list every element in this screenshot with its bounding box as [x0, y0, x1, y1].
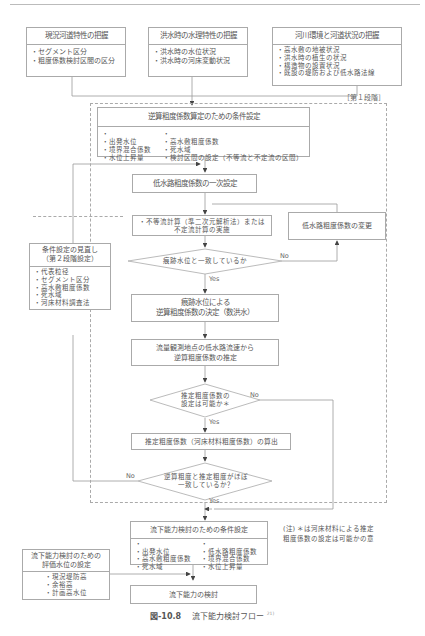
decision3-line1: 逆算粗度と推定粗度がほぼ [148, 473, 263, 481]
figure-title: 流下能力検討フロー [192, 612, 264, 621]
flow-calc-line2: 不定流計算の実施 [174, 226, 230, 234]
reverse-roughness-condition-box: 逆算粗度係数算定のための条件設定 出発水位 境界混合係数 水位上昇量 高水敷粗度… [97, 107, 310, 157]
river-environment-box: 河川環境と河道状況の把握 高水敷の地被状況 洪水時の植生の状況 構造物の設置状況… [272, 27, 402, 86]
flow-calc-box: ・不等流計算（準二次元解析法）または 不定流計算の実施 [132, 215, 272, 236]
figure-reference: 21) [267, 611, 274, 616]
box-title: 現況河道特性の把握 [27, 28, 125, 45]
decision3-line2: 一致しているか？ [148, 481, 263, 489]
decision3-no-label: No [126, 472, 135, 480]
box-item: 死水域 [163, 146, 303, 154]
estimate-line2: 逆算粗度係数の推定 [174, 353, 237, 363]
calc-estimated-box: 推定粗度係数（河床材料粗度係数）の算出 [131, 433, 291, 450]
flow-capacity-condition-box: 流下能力検討のための条件設定 出発水位 高水敷粗度係数 死水域 低水路粗度係数 … [130, 521, 268, 565]
footnote: (注) ＊は河床材料による推定 粗度係数の設定は可能かの意 [283, 524, 374, 544]
box-item: 検討区間の設定（不等流と不定流の区間） [163, 154, 303, 162]
review-title-line2: （第２段階設定） [32, 255, 108, 264]
current-channel-box: 現況河道特性の把握 セグメント区分 粗度係数検討区間の区分 [26, 27, 126, 77]
eval-title-line1: 流下能力検討のための [25, 552, 107, 561]
decision1-no-label: No [280, 252, 289, 260]
low-channel-change-box: 低水路粗度係数の変更 [288, 212, 386, 240]
footnote-line2: 粗度係数の設定は可能かの意 [283, 534, 374, 544]
box-title: 流下能力検討のための条件設定 [131, 522, 267, 539]
flow-capacity-review-box: 流下能力の検討 [130, 585, 257, 604]
box-title: 洪水時の水理特性の把握 [149, 28, 247, 45]
footnote-line1: (注) ＊は河床材料による推定 [283, 524, 374, 534]
determine-roughness-box: 痕跡水位による 逆算粗度係数の決定（数洪水） [131, 294, 279, 322]
determine-line2: 逆算粗度係数の決定（数洪水） [156, 308, 254, 318]
stage1-label: ［第１段階］ [343, 92, 385, 102]
eval-title-line2: 評価水位の設定 [25, 561, 107, 570]
box-title: 流下能力検討のための 評価水位の設定 [23, 550, 109, 572]
box-item: 河床材料調査法 [34, 300, 106, 308]
figure-number: 図-10.8 [150, 612, 181, 621]
box-title: 河川環境と河道状況の把握 [273, 28, 401, 45]
box-item: 計画高水位 [45, 590, 105, 598]
decision1-text: 痕跡水位と一致しているか [150, 257, 260, 265]
box-item: 境界混合係数 [102, 146, 151, 154]
condition-review-box: 条件設定の見直し （第２段階設定） 代表粒径 セグメント区分 高水敷粗度係数 死… [29, 243, 111, 310]
box-item: 既設の堤防および低水路法線 [277, 70, 397, 78]
review-title-line1: 条件設定の見直し [32, 246, 108, 255]
decision2-line1: 推定粗度係数の [165, 392, 245, 400]
flood-hydraulics-box: 洪水時の水理特性の把握 洪水時の水位状況 洪水時の河床変動状況 [148, 27, 248, 77]
flow-calc-line1: ・不等流計算（準二次元解析法）または [139, 218, 265, 226]
box-item: 高水敷粗度係数 [163, 138, 303, 146]
decision3-text: 逆算粗度と推定粗度がほぼ 一致しているか？ [148, 473, 263, 489]
decision3-yes-label: Yes [209, 497, 220, 505]
decision2-yes-label: Yes [209, 418, 220, 426]
box-item: 粗度係数検討区間の区分 [31, 57, 121, 66]
estimate-line1: 流量観測地点の低水路流速から [156, 343, 254, 353]
box-item: 出発水位 [102, 138, 151, 146]
estimate-roughness-box: 流量観測地点の低水路流速から 逆算粗度係数の推定 [131, 339, 279, 366]
decision2-no-label: No [250, 391, 259, 399]
box-title: 逆算粗度係数算定のための条件設定 [98, 108, 309, 127]
decision1-yes-label: Yes [209, 275, 220, 283]
decision2-line2: 設定は可能か＊ [165, 400, 245, 408]
low-channel-initial-box: 低水路粗度係数の一次設定 [132, 174, 257, 193]
box-item: 死水域 [135, 564, 191, 572]
determine-line1: 痕跡水位による [181, 298, 230, 308]
box-item: 洪水時の河床変動状況 [153, 57, 243, 66]
stage1-inner-left [33, 216, 123, 217]
decision2-text: 推定粗度係数の 設定は可能か＊ [165, 392, 245, 408]
box-item: 洪水時の水位状況 [153, 48, 243, 57]
figure-caption: 図-10.8 流下能力検討フロー 21) [150, 610, 274, 621]
evaluation-water-level-box: 流下能力検討のための 評価水位の設定 現況堤防高 余裕高 計画高水位 [22, 549, 110, 600]
box-item: セグメント区分 [31, 48, 121, 57]
box-title: 条件設定の見直し （第２段階設定） [30, 244, 110, 267]
box-item: 水位上昇量 [201, 564, 257, 572]
box-item: 水位上昇量 [102, 154, 151, 162]
